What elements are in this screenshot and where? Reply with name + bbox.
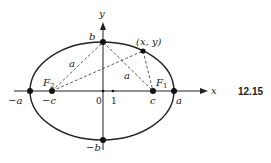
y-axis-label: y <box>98 8 105 19</box>
general-point-label: (x, y) <box>136 36 162 47</box>
vertex-right-point <box>171 88 177 94</box>
focus-right-point <box>150 88 156 94</box>
origin-tick <box>102 90 105 93</box>
covertex-top-label: b <box>89 31 95 42</box>
vertex-right-label: a <box>176 95 182 106</box>
unit-tick <box>112 90 115 93</box>
figure-number: 12.15 <box>238 86 263 97</box>
vertex-left-label: −a <box>8 95 22 106</box>
focus-right-coord-label: c <box>150 95 156 106</box>
segment-right-label: a <box>124 70 130 81</box>
unit-label: 1 <box>111 96 117 106</box>
x-axis-label: x <box>211 85 217 96</box>
segment-left-label: a <box>69 58 75 69</box>
covertex-bottom-point <box>100 137 106 143</box>
ellipse-diagram: y x 0 1 b −b −a a −c c F2 F1 (x, y) a a … <box>0 0 271 163</box>
x-axis-arrow-icon <box>200 88 208 94</box>
origin-label: 0 <box>96 96 102 106</box>
focus-right-name: F1 <box>155 77 167 90</box>
general-point <box>140 48 145 53</box>
y-axis-arrow-icon <box>100 22 106 30</box>
covertex-bottom-label: −b <box>86 142 101 153</box>
focus-left-name: F2 <box>42 77 54 90</box>
focus-left-coord-label: −c <box>42 95 56 106</box>
vertex-left-point <box>27 88 33 94</box>
covertex-top-point <box>100 39 106 45</box>
